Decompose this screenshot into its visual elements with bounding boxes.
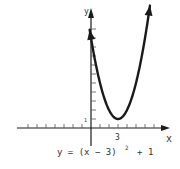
- x-tick-label-3: 3: [115, 133, 120, 142]
- y-axis-arrow-icon: [88, 8, 94, 18]
- y-tick-label-1: 1: [84, 117, 87, 123]
- equation-label: y = (x − 3) 2 + 1: [57, 142, 153, 157]
- equation-rhs: + 1: [137, 147, 153, 157]
- x-axis-label: x: [166, 133, 172, 144]
- parabola-path: [90, 6, 150, 119]
- parabola-curve: [87, 6, 152, 119]
- equation-exponent: 2: [125, 144, 129, 151]
- graph-canvas: x y 3 1 y = (x − 3) 2 + 1: [0, 0, 180, 169]
- y-axis-label: y: [84, 7, 89, 16]
- x-axis-arrow-icon: [161, 125, 170, 131]
- parabola-graph: x y 3 1 y = (x − 3) 2 + 1: [0, 0, 180, 169]
- equation-lhs: y = (x − 3): [57, 147, 117, 157]
